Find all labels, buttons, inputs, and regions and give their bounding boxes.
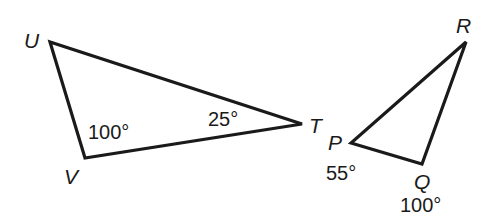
geometry-diagram-canvas: U V T 100° 25° P Q R 55° 100° bbox=[0, 0, 498, 224]
angle-label-v: 100° bbox=[88, 121, 129, 143]
angle-label-p: 55° bbox=[326, 162, 356, 184]
triangle-pqr-outline bbox=[351, 42, 466, 164]
vertex-label-q: Q bbox=[414, 170, 430, 193]
vertex-label-v: V bbox=[64, 165, 80, 188]
vertex-label-r: R bbox=[456, 14, 471, 37]
angle-label-t: 25° bbox=[208, 108, 238, 130]
angle-label-q: 100° bbox=[400, 194, 441, 216]
figure-svg: U V T 100° 25° P Q R 55° 100° bbox=[0, 0, 498, 224]
vertex-label-t: T bbox=[309, 114, 324, 137]
vertex-label-p: P bbox=[328, 131, 342, 154]
vertex-label-u: U bbox=[24, 29, 40, 52]
triangle-uvt: U V T 100° 25° bbox=[24, 29, 324, 188]
triangle-pqr: P Q R 55° 100° bbox=[326, 14, 471, 216]
